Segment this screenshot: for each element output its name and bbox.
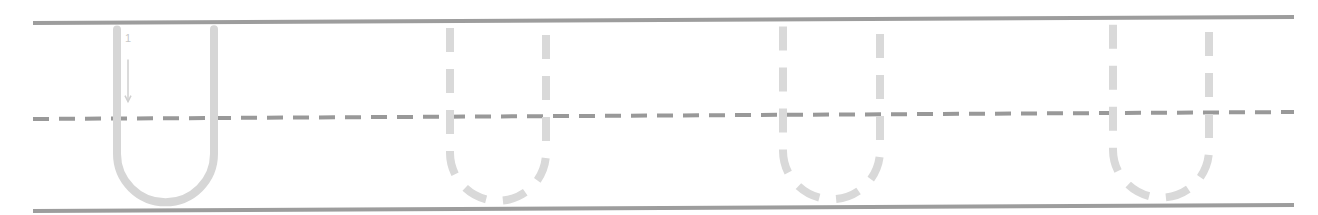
letters: [117, 24, 1209, 202]
guide-lines: [33, 17, 1294, 211]
dashed-midline: [33, 112, 1294, 119]
handwriting-worksheet: 1: [0, 0, 1318, 215]
letter-u-trace-1: [450, 28, 546, 201]
letter-u-model: [117, 29, 214, 202]
bottom-guide-line: [33, 205, 1294, 211]
practice-canvas: [0, 0, 1318, 215]
top-guide-line: [33, 17, 1294, 23]
stroke-order-number: 1: [125, 33, 131, 44]
